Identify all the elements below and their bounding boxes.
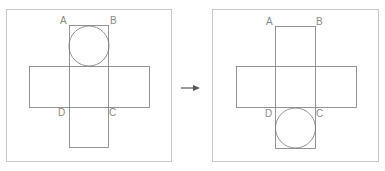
circle-top-face: [69, 26, 109, 66]
horizontal-strip: [30, 67, 150, 108]
label-a: A: [60, 15, 67, 26]
diagram-canvas: A B D C A B D C: [0, 0, 385, 171]
panel-before: A B D C: [7, 10, 172, 162]
label-b: B: [316, 16, 323, 27]
circle-bottom-face: [276, 108, 316, 148]
vertical-strip: [70, 26, 109, 148]
arrow-right-icon: [181, 85, 200, 91]
panel-after: A B D C: [213, 10, 379, 162]
horizontal-strip: [237, 67, 357, 108]
label-d: D: [58, 107, 65, 118]
vertical-strip: [276, 27, 316, 149]
label-d: D: [265, 108, 272, 119]
label-c: C: [316, 108, 323, 119]
label-b: B: [110, 15, 117, 26]
label-a: A: [266, 16, 273, 27]
panel-frame: [213, 10, 379, 162]
panel-frame: [7, 10, 172, 162]
label-c: C: [109, 107, 116, 118]
